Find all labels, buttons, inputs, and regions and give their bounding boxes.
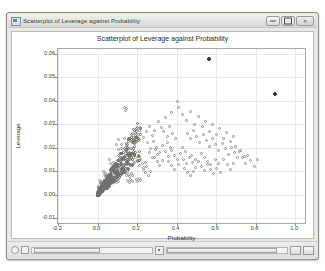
scatter-point bbox=[117, 138, 120, 141]
grid-line-horizontal bbox=[58, 101, 305, 102]
scatter-point bbox=[149, 147, 152, 150]
y-axis-title: Leverage bbox=[15, 123, 21, 148]
scatter-point bbox=[116, 170, 119, 173]
scatter-point bbox=[145, 130, 148, 133]
x-axis-tick-label: 1.0 bbox=[290, 225, 298, 231]
scatter-point bbox=[139, 179, 142, 182]
scatter-point bbox=[138, 164, 141, 167]
y-axis-tick-label: 0.01 bbox=[44, 167, 55, 173]
scatter-point bbox=[203, 169, 206, 172]
scatter-point bbox=[221, 142, 224, 145]
scatter-point bbox=[191, 161, 194, 164]
scatter-point bbox=[219, 171, 222, 174]
y-axis-tick-label: 0.03 bbox=[44, 120, 55, 126]
scatter-point bbox=[151, 134, 154, 137]
scatter-point bbox=[222, 137, 225, 140]
scatter-point bbox=[135, 130, 138, 133]
scatter-point bbox=[215, 133, 218, 136]
y-axis-tick-label: 0.00 bbox=[44, 191, 55, 197]
window-titlebar[interactable]: Scatterplot of Leverage against Probabil… bbox=[8, 14, 317, 28]
scatter-point bbox=[249, 159, 252, 162]
grid-line-horizontal bbox=[58, 195, 305, 196]
scatter-point bbox=[253, 165, 256, 168]
scatter-point bbox=[211, 137, 214, 140]
scatter-point bbox=[222, 158, 225, 161]
grid-line-horizontal bbox=[58, 54, 305, 55]
scatter-point bbox=[212, 172, 215, 175]
scatter-point bbox=[209, 163, 212, 166]
scatter-point bbox=[208, 130, 211, 133]
grid-line-vertical bbox=[256, 49, 257, 223]
scrollbar-thumb-secondary[interactable] bbox=[167, 248, 277, 253]
plot-area[interactable] bbox=[57, 48, 306, 224]
y-axis-tick-label: 0.05 bbox=[44, 73, 55, 79]
scatter-point bbox=[122, 157, 125, 160]
y-axis-tick-label: 0.04 bbox=[44, 97, 55, 103]
y-axis-tick-label: 0.02 bbox=[44, 144, 55, 150]
scatter-point bbox=[149, 170, 152, 173]
maximize-button[interactable] bbox=[281, 16, 295, 26]
scroll-right-icon[interactable] bbox=[303, 246, 314, 255]
grid-line-vertical bbox=[295, 49, 296, 223]
close-icon: ✕ bbox=[303, 18, 307, 23]
scatter-point bbox=[181, 146, 184, 149]
scatter-point bbox=[160, 126, 163, 129]
scatter-point bbox=[230, 146, 233, 149]
scroll-left-icon[interactable] bbox=[290, 246, 301, 255]
scatter-point bbox=[229, 140, 232, 143]
scatter-point bbox=[197, 115, 200, 118]
scatter-point bbox=[142, 136, 145, 139]
circle-handle-icon[interactable] bbox=[11, 246, 19, 254]
scatter-point bbox=[148, 151, 151, 154]
grid-line-horizontal bbox=[58, 218, 305, 219]
statusbar-left-controls bbox=[11, 246, 29, 254]
scatter-point bbox=[218, 127, 221, 130]
scatter-point bbox=[108, 185, 111, 188]
close-button[interactable]: ✕ bbox=[296, 16, 314, 26]
chart-canvas[interactable]: Scatterplot of Leverage against Probabil… bbox=[11, 31, 314, 239]
scatter-point bbox=[162, 130, 165, 133]
scatter-point-outlier bbox=[273, 92, 277, 96]
scatter-point bbox=[156, 160, 159, 163]
scatter-point bbox=[183, 167, 186, 170]
slider-marker-icon[interactable] bbox=[155, 246, 164, 255]
x-axis-tick-label: 0.0 bbox=[93, 225, 101, 231]
scatter-point bbox=[176, 100, 179, 103]
scatter-point bbox=[170, 149, 173, 152]
scatter-point bbox=[144, 161, 147, 164]
scatter-point bbox=[124, 148, 127, 151]
window-statusbar[interactable] bbox=[8, 241, 317, 258]
statusbar-end-controls bbox=[290, 246, 314, 255]
scatter-point bbox=[167, 155, 170, 158]
scatter-point bbox=[236, 156, 239, 159]
scatter-point bbox=[184, 150, 187, 153]
scatter-point bbox=[133, 153, 136, 156]
scatter-point bbox=[232, 135, 235, 138]
horizontal-scrollbar[interactable] bbox=[31, 247, 153, 254]
scatter-point bbox=[185, 162, 188, 165]
scatter-point bbox=[200, 152, 203, 155]
scatter-point bbox=[177, 106, 180, 109]
scatter-point bbox=[194, 158, 197, 161]
scatter-point bbox=[173, 154, 176, 157]
scatter-point bbox=[168, 125, 171, 128]
scatter-point bbox=[170, 164, 173, 167]
scrollbar-thumb[interactable] bbox=[34, 248, 100, 253]
horizontal-scrollbar-secondary[interactable] bbox=[166, 247, 288, 254]
scatter-point bbox=[204, 120, 207, 123]
scatter-point bbox=[115, 143, 118, 146]
scatter-point bbox=[194, 166, 197, 169]
scatter-point bbox=[185, 119, 188, 122]
scatter-point bbox=[238, 150, 241, 153]
square-handle-icon[interactable] bbox=[21, 246, 29, 254]
y-axis-tick-label: -0.01 bbox=[42, 214, 55, 220]
scatter-point bbox=[186, 132, 189, 135]
y-axis-tick bbox=[55, 77, 58, 78]
scatter-point bbox=[214, 158, 217, 161]
scatter-point bbox=[181, 113, 184, 116]
scatter-point bbox=[232, 162, 235, 165]
minimize-button[interactable] bbox=[266, 16, 280, 26]
scatter-point bbox=[131, 174, 134, 177]
scatter-point bbox=[171, 132, 174, 135]
scatter-point bbox=[119, 174, 122, 177]
